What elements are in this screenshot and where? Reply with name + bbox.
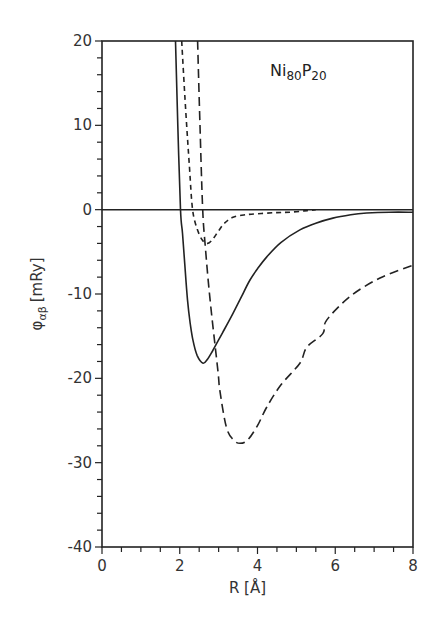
x-tick-label: 2 (175, 557, 185, 575)
composition-annotation: Ni80P20 (270, 61, 327, 83)
y-axis-symbol: φ (28, 320, 46, 330)
axis-ticks (95, 41, 413, 554)
y-tick-label: -20 (68, 369, 93, 387)
annotation-ni: Ni (270, 61, 286, 80)
y-tick-label: -10 (68, 285, 93, 303)
y-axis-subscript: αβ (36, 306, 49, 320)
y-tick-label: -30 (68, 454, 93, 472)
annotation-ni-subscript: 80 (286, 69, 301, 83)
y-tick-label: 0 (82, 201, 92, 219)
tick-labels: 0246820100-10-20-30-40 (68, 32, 418, 575)
y-axis-label: φαβ[mRy] (28, 258, 49, 331)
x-axis-label: R [Å] (229, 578, 266, 597)
y-tick-label: 20 (73, 32, 92, 50)
x-tick-label: 8 (408, 557, 418, 575)
x-tick-label: 6 (330, 557, 340, 575)
y-tick-label: 10 (73, 116, 92, 134)
plot-frame (102, 41, 413, 547)
y-tick-label: -40 (68, 538, 93, 556)
annotation-p-subscript: 20 (311, 69, 326, 83)
annotation-p: P (302, 61, 312, 80)
chart: 0246820100-10-20-30-40 Ni80P20 R [Å] φαβ… (0, 0, 431, 622)
x-tick-label: 4 (253, 557, 263, 575)
series-group (176, 41, 414, 443)
x-tick-label: 0 (97, 557, 107, 575)
y-axis-unit: [mRy] (28, 258, 46, 303)
series-line-long-dash (198, 41, 413, 443)
